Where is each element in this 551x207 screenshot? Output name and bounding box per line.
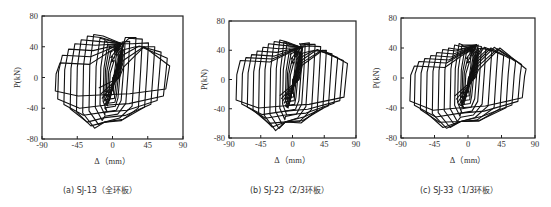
y-tick-label: 40 xyxy=(30,42,39,52)
chart-panel-sj-33: -90-4504590-80-4004080Δ（mm）P(kN) xyxy=(371,13,539,165)
x-tick-label: -90 xyxy=(223,139,234,149)
y-tick-label: -80 xyxy=(214,133,225,143)
y-axis-label: P(kN) xyxy=(199,69,209,90)
chart-caption: (b) SJ-23（2/3环板） xyxy=(250,184,329,195)
hysteresis-loops xyxy=(55,35,169,129)
y-tick-label: 80 xyxy=(389,13,398,23)
x-tick-label: 45 xyxy=(497,139,506,149)
x-tick-label: -45 xyxy=(72,140,83,150)
x-tick-label: 45 xyxy=(320,139,329,149)
x-axis-label: Δ（mm） xyxy=(274,155,311,165)
chart-caption: (c) SJ-33（1/3环板） xyxy=(420,184,498,195)
x-axis-label: Δ（mm） xyxy=(94,156,131,166)
x-tick-label: 45 xyxy=(144,140,153,150)
y-tick-label: 80 xyxy=(30,11,39,21)
y-tick-label: 0 xyxy=(34,73,38,83)
y-tick-label: -80 xyxy=(27,134,38,144)
x-tick-label: -45 xyxy=(429,139,440,149)
y-axis-label: P(kN) xyxy=(371,67,381,88)
x-axis-label: Δ（mm） xyxy=(450,155,487,165)
y-tick-label: 40 xyxy=(217,45,226,55)
chart-panel-sj-13: -90-4504590-80-4004080Δ（mm）P(kN) xyxy=(12,11,187,166)
y-tick-label: -40 xyxy=(386,103,397,113)
y-tick-label: 80 xyxy=(217,16,226,26)
y-tick-label: -40 xyxy=(214,104,225,114)
y-tick-label: 0 xyxy=(221,75,225,85)
y-tick-label: 40 xyxy=(389,43,398,53)
x-tick-label: -90 xyxy=(395,139,406,149)
y-tick-label: -40 xyxy=(27,103,38,113)
x-tick-label: 90 xyxy=(352,139,361,149)
hysteresis-loops xyxy=(236,40,347,131)
x-tick-label: 90 xyxy=(531,139,540,149)
x-tick-label: 90 xyxy=(179,140,188,150)
y-tick-label: 0 xyxy=(393,73,397,83)
x-tick-label: -45 xyxy=(255,139,266,149)
x-tick-label: 0 xyxy=(466,139,470,149)
y-tick-label: -80 xyxy=(386,133,397,143)
y-axis-label: P(kN) xyxy=(12,67,22,88)
x-tick-label: 0 xyxy=(110,140,114,150)
chart-caption: (a) SJ-13（全环板） xyxy=(63,184,137,195)
chart-panel-sj-23: -90-4504590-80-4004080Δ（mm）P(kN) xyxy=(199,16,360,165)
hysteresis-loops xyxy=(410,44,526,129)
x-tick-label: 0 xyxy=(290,139,294,149)
x-tick-label: -90 xyxy=(36,140,47,150)
charts-canvas: -90-4504590-80-4004080Δ（mm）P(kN)-90-4504… xyxy=(0,0,551,207)
